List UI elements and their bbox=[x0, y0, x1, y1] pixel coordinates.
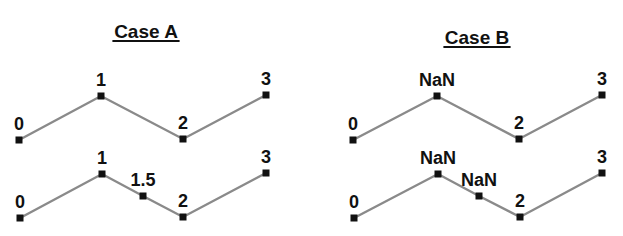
data-point-marker bbox=[516, 136, 523, 143]
point-label: 2 bbox=[514, 113, 524, 133]
data-point-marker bbox=[180, 136, 187, 143]
point-label: 0 bbox=[15, 192, 25, 212]
point-label: 0 bbox=[348, 114, 358, 134]
data-point-marker bbox=[99, 171, 106, 178]
point-label: 2 bbox=[515, 191, 525, 211]
panel-case-b: Case B0NaN230NaNNaN23 bbox=[348, 27, 607, 222]
point-label: NaN bbox=[419, 70, 455, 90]
point-label: 3 bbox=[261, 69, 271, 89]
data-point-marker bbox=[599, 92, 606, 99]
data-point-marker bbox=[350, 137, 357, 144]
data-point-marker bbox=[351, 215, 358, 222]
point-label: 0 bbox=[14, 114, 24, 134]
point-label: 0 bbox=[349, 192, 359, 212]
point-label: 1 bbox=[96, 70, 106, 90]
series-row-2: 011.523 bbox=[15, 147, 271, 222]
point-label: 2 bbox=[178, 113, 188, 133]
series-row-1: 0123 bbox=[14, 69, 271, 144]
data-point-marker bbox=[98, 93, 105, 100]
data-point-marker bbox=[476, 193, 483, 200]
series-row-1: 0NaN23 bbox=[348, 69, 607, 144]
panel-case-a: Case A0123011.523 bbox=[14, 21, 271, 222]
data-point-marker bbox=[434, 93, 441, 100]
point-label: NaN bbox=[420, 148, 456, 168]
connecting-line bbox=[353, 95, 602, 140]
data-point-marker bbox=[599, 170, 606, 177]
point-label: 1 bbox=[97, 148, 107, 168]
point-label: 1.5 bbox=[130, 170, 155, 190]
connecting-line bbox=[19, 95, 266, 140]
data-point-marker bbox=[435, 171, 442, 178]
data-point-marker bbox=[517, 214, 524, 221]
series-row-2: 0NaNNaN23 bbox=[349, 147, 607, 222]
point-label: 2 bbox=[178, 191, 188, 211]
data-point-marker bbox=[16, 137, 23, 144]
data-point-marker bbox=[263, 92, 270, 99]
panel-title: Case A bbox=[114, 21, 178, 42]
panel-title: Case B bbox=[445, 27, 509, 48]
point-label: 3 bbox=[261, 147, 271, 167]
point-label: NaN bbox=[461, 170, 497, 190]
interpolation-diagram: Case A0123011.523Case B0NaN230NaNNaN23 bbox=[0, 0, 623, 236]
data-point-marker bbox=[140, 193, 147, 200]
data-point-marker bbox=[263, 170, 270, 177]
point-label: 3 bbox=[597, 69, 607, 89]
data-point-marker bbox=[180, 214, 187, 221]
data-point-marker bbox=[17, 215, 24, 222]
point-label: 3 bbox=[597, 147, 607, 167]
